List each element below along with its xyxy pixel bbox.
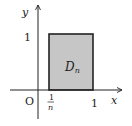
x-tick-one: 1 — [91, 97, 98, 110]
region-label-main: D — [64, 60, 75, 74]
y-axis-label: y — [21, 6, 29, 19]
x-tick-frac-numerator: 1 — [49, 93, 54, 102]
diagram-canvas: y 1 O 1 n 1 x Dn — [0, 0, 132, 126]
y-tick-one: 1 — [24, 31, 31, 44]
origin-label: O — [25, 95, 34, 108]
x-tick-frac-denominator: n — [48, 103, 53, 112]
x-axis-label: x — [111, 94, 118, 107]
region-label-subscript: n — [75, 66, 80, 75]
